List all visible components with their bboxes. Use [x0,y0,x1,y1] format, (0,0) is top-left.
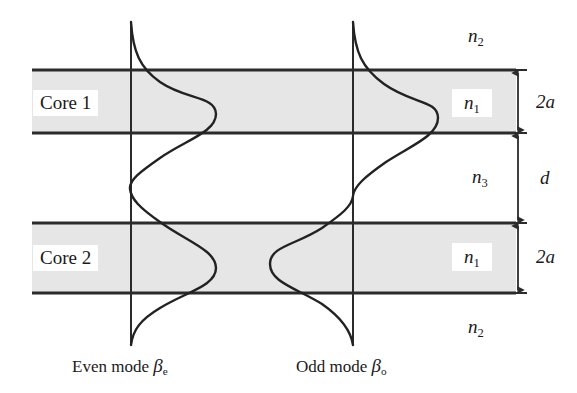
gap-index-subscript: 3 [482,176,488,190]
core-2-label: Core 2 [33,245,98,271]
coupled-waveguide-figure: n2 Core 1 n1 2a n3 d Core 2 n1 2a n2 Eve… [0,0,577,393]
cladding-bottom-index-subscript: 2 [478,326,484,340]
core-2-index-symbol: n [464,246,474,267]
odd-mode-caption: Odd mode βo [296,356,387,375]
core-1-fill [32,70,516,133]
core-1-index-label: n1 [452,89,492,117]
core-1-label: Core 1 [33,90,98,116]
even-mode-beta-subscript: e [163,365,168,377]
even-mode-beta-symbol: β [153,355,162,376]
core-1-thickness-label: 2a [536,92,555,111]
odd-mode-beta-symbol: β [372,355,381,376]
core-2-fill [32,223,516,293]
gap-index-label: n3 [472,167,488,186]
even-mode-caption-text: Even mode [72,357,153,376]
odd-mode-caption-text: Odd mode [296,357,372,376]
cladding-top-index-label: n2 [468,26,484,45]
cladding-top-index-symbol: n [468,25,478,46]
gap-index-symbol: n [472,166,482,187]
diagram-canvas [0,0,577,393]
core-2-thickness-label: 2a [536,247,555,266]
core-1-index-subscript: 1 [474,102,480,116]
cladding-bottom-index-symbol: n [468,316,478,337]
core-2-index-subscript: 1 [474,256,480,270]
odd-mode-beta-subscript: o [381,365,387,377]
even-mode-caption: Even mode βe [72,356,168,375]
cladding-top-index-subscript: 2 [478,35,484,49]
cladding-bottom-index-label: n2 [468,317,484,336]
core-1-index-symbol: n [464,92,474,113]
gap-separation-label: d [540,168,550,187]
core-2-index-label: n1 [452,243,492,271]
